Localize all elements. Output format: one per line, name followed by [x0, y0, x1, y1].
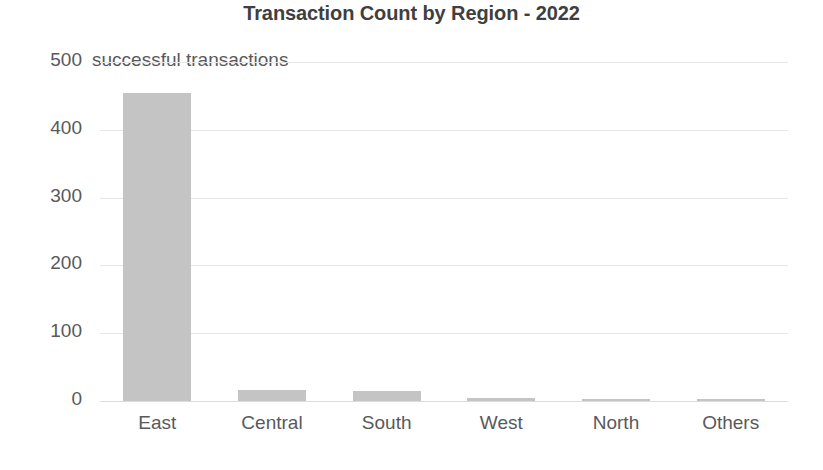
- x-axis-tick-label: Central: [215, 412, 330, 434]
- gridline: [100, 265, 788, 266]
- bar[interactable]: [123, 93, 191, 401]
- gridline: [100, 198, 788, 199]
- bar[interactable]: [582, 399, 650, 401]
- gridline: [100, 333, 788, 334]
- bar[interactable]: [238, 390, 306, 401]
- gridline: [100, 62, 788, 63]
- chart-title: Transaction Count by Region - 2022: [0, 2, 823, 25]
- y-axis-tick-label: 0: [0, 388, 82, 410]
- bar[interactable]: [697, 399, 765, 401]
- x-axis-tick-label: West: [444, 412, 559, 434]
- bar[interactable]: [353, 391, 421, 401]
- y-axis-tick-label: 500: [0, 49, 82, 71]
- x-axis-tick-label: North: [559, 412, 674, 434]
- gridline: [100, 401, 788, 402]
- gridline: [100, 130, 788, 131]
- y-axis-tick-label: 300: [0, 185, 82, 207]
- x-axis-tick-label: South: [329, 412, 444, 434]
- bar[interactable]: [467, 398, 535, 401]
- y-axis-tick-label: 200: [0, 252, 82, 274]
- bar-chart: Transaction Count by Region - 2022 01002…: [0, 0, 823, 470]
- y-axis-tick-label: 100: [0, 320, 82, 342]
- x-axis-tick-label: East: [100, 412, 215, 434]
- plot-area: [100, 62, 788, 401]
- x-axis-tick-label: Others: [673, 412, 788, 434]
- y-axis-tick-label: 400: [0, 117, 82, 139]
